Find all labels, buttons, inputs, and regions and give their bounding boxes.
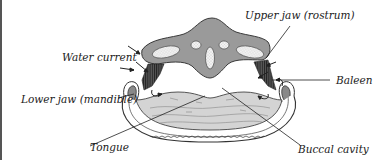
- label-water-current: Water current: [62, 52, 137, 63]
- baleen-left: [142, 64, 164, 90]
- whale-mouth-cross-section: [0, 0, 384, 160]
- diagram-frame: Upper jaw (rostrum) Water current Baleen…: [0, 0, 384, 160]
- bone-patch: [219, 41, 229, 49]
- label-baleen: Baleen: [336, 75, 373, 86]
- baleen-right: [254, 60, 276, 90]
- label-upper-jaw: Upper jaw (rostrum): [245, 10, 355, 21]
- bone-patch: [191, 41, 201, 49]
- bone-patch: [206, 47, 215, 69]
- label-buccal-cavity: Buccal cavity: [298, 144, 369, 155]
- leader-upper-jaw: [266, 26, 290, 58]
- label-lower-jaw: Lower jaw (mandible): [21, 94, 137, 105]
- label-tongue: Tongue: [90, 142, 129, 153]
